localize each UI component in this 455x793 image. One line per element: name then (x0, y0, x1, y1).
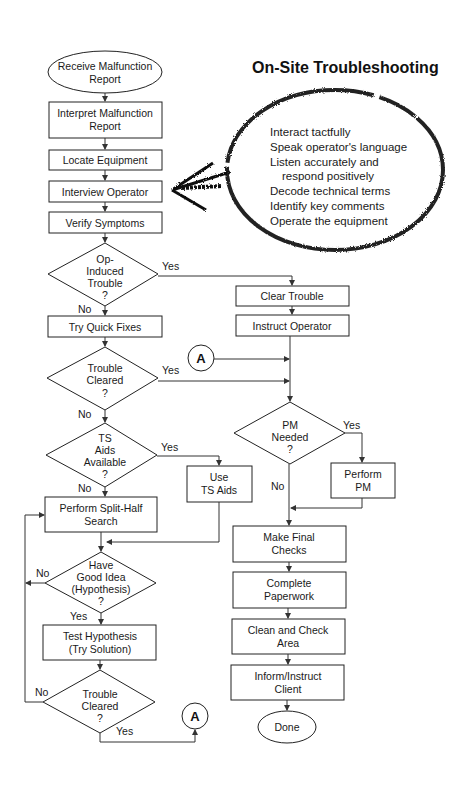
callout-item: Interact tactfully (270, 126, 351, 138)
node-locate-equipment: Locate Equipment (49, 150, 162, 170)
decision-ts-aids-available: TSAidsAvailable? (46, 423, 157, 487)
edge-label-no: No (78, 482, 92, 494)
node-instruct-operator: Instruct Operator (236, 315, 349, 336)
decision-op-induced: Op-InducedTrouble? (48, 243, 158, 306)
edge-label-no: No (36, 567, 50, 579)
edge-label-yes: Yes (162, 364, 179, 376)
callout-item: respond positively (282, 170, 374, 182)
svg-text:Locate Equipment: Locate Equipment (63, 154, 148, 166)
node-interview-operator: Interview Operator (49, 181, 162, 202)
edge-label-yes: Yes (343, 419, 360, 431)
svg-text:A: A (196, 351, 206, 366)
svg-text:Done: Done (274, 721, 299, 733)
callout-item: Operate the equipment (270, 215, 388, 227)
connector-a-bottom: A (182, 703, 208, 729)
node-interpret-report: Interpret MalfunctionReport (49, 102, 162, 138)
connector-a-top: A (188, 345, 214, 371)
node-verify-symptoms: Verify Symptoms (49, 212, 162, 233)
node-make-final-checks: Make FinalChecks (233, 526, 346, 562)
decision-pm-needed: PMNeeded? (234, 402, 345, 464)
troubleshooting-flowchart: On-Site Troubleshooting Interact tactful… (0, 0, 455, 793)
node-try-quick-fixes: Try Quick Fixes (48, 316, 162, 337)
svg-text:CompletePaperwork: CompletePaperwork (264, 577, 315, 602)
edge-label-yes: Yes (116, 725, 133, 737)
edge-label-no: No (78, 408, 92, 420)
callout-item: Speak operator's language (270, 141, 407, 153)
svg-text:A: A (190, 709, 200, 724)
edge-label-no: No (78, 303, 92, 315)
svg-text:Instruct Operator: Instruct Operator (253, 320, 332, 332)
node-inform-client: Inform/InstructClient (231, 665, 344, 700)
edge-label-yes: Yes (161, 441, 178, 453)
svg-text:Verify Symptoms: Verify Symptoms (66, 217, 145, 229)
edge-label-no: No (35, 686, 49, 698)
node-clear-trouble: Clear Trouble (236, 286, 349, 306)
node-receive-report: Receive MalfunctionReport (48, 51, 162, 93)
callout-list: Interact tactfully Speak operator's lang… (270, 126, 410, 227)
callout-item: Decode technical terms (270, 185, 390, 197)
decision-trouble-cleared-2: TroubleCleared? (43, 670, 155, 733)
node-test-hypothesis: Test Hypothesis(Try Solution) (43, 625, 156, 660)
node-perform-pm: PerformPM (331, 463, 395, 498)
node-complete-paperwork: CompletePaperwork (233, 572, 346, 608)
callout-item: Identify key comments (270, 200, 385, 212)
callout-bubble: Interact tactfully Speak operator's lang… (172, 90, 443, 250)
decision-trouble-cleared-1: TroubleCleared? (47, 347, 158, 410)
flowchart-title: On-Site Troubleshooting (252, 59, 439, 76)
edge-label-no: No (271, 480, 285, 492)
svg-text:Interview Operator: Interview Operator (62, 186, 149, 198)
callout-item: Listen accurately and (270, 156, 379, 168)
decision-have-good-idea: HaveGood Idea(Hypothesis)? (45, 552, 156, 613)
node-clean-check-area: Clean and CheckArea (232, 619, 345, 654)
node-done: Done (258, 711, 316, 743)
callout-arrow-icon (172, 163, 230, 210)
svg-text:Try Quick Fixes: Try Quick Fixes (69, 321, 142, 333)
svg-text:Test Hypothesis(Try Solution): Test Hypothesis(Try Solution) (63, 630, 137, 655)
node-perform-split-half-search: Perform Split-HalfSearch (45, 497, 157, 532)
edge-label-yes: Yes (162, 260, 179, 272)
svg-text:Clear Trouble: Clear Trouble (260, 290, 323, 302)
node-use-ts-aids: UseTS Aids (187, 466, 252, 502)
edge-label-yes: Yes (70, 610, 87, 622)
